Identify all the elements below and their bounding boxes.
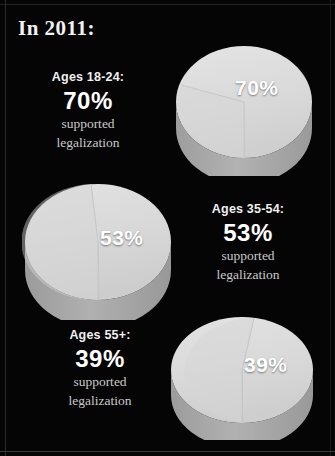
frame-line-bottom <box>0 451 335 452</box>
stat-sub-line-2: legalization <box>30 393 170 409</box>
frame-line-top <box>0 4 335 5</box>
stat-sub-line-1: supported <box>178 248 318 264</box>
pie-svg-53 <box>22 170 174 320</box>
frame-line-right <box>330 0 331 456</box>
frame-line-left <box>5 0 6 456</box>
stat-age-label: Ages 35-54: <box>178 202 318 218</box>
pie-svg-70 <box>173 28 315 176</box>
infographic-canvas: In 2011: Ages 18-24: 70% supported legal… <box>0 0 335 456</box>
pie-chart-ages-55-plus: 39% <box>168 308 316 440</box>
page-title: In 2011: <box>18 16 95 41</box>
stat-percent-value: 39% <box>30 345 170 373</box>
stat-block-ages-18-24: Ages 18-24: 70% supported legalization <box>18 70 158 151</box>
stat-block-ages-55-plus: Ages 55+: 39% supported legalization <box>30 328 170 409</box>
stat-sub-line-1: supported <box>18 116 158 132</box>
stat-sub-line-1: supported <box>30 374 170 390</box>
pie-chart-ages-35-54: 53% <box>22 170 174 320</box>
pie-chart-ages-18-24: 70% <box>173 28 315 176</box>
stat-percent-value: 53% <box>178 219 318 247</box>
pie-value-label: 53% <box>100 226 144 250</box>
stat-sub-line-2: legalization <box>178 267 318 283</box>
pie-value-label: 39% <box>244 353 288 377</box>
pie-value-label: 70% <box>235 76 279 100</box>
pie-svg-39 <box>168 308 316 440</box>
stat-block-ages-35-54: Ages 35-54: 53% supported legalization <box>178 202 318 283</box>
stat-percent-value: 70% <box>18 87 158 115</box>
stat-sub-line-2: legalization <box>18 135 158 151</box>
stat-age-label: Ages 18-24: <box>18 70 158 86</box>
stat-age-label: Ages 55+: <box>30 328 170 344</box>
